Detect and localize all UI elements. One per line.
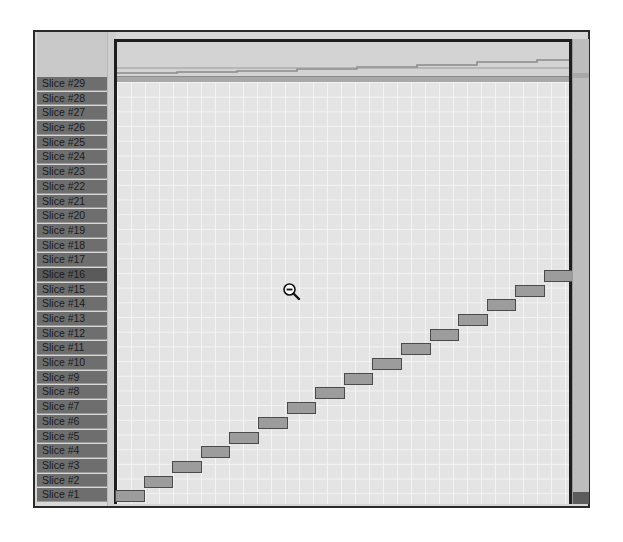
- slice-label[interactable]: Slice #23: [37, 165, 107, 179]
- slice-block[interactable]: [344, 373, 374, 385]
- slice-label[interactable]: Slice #5: [37, 430, 107, 444]
- slice-label[interactable]: Slice #15: [37, 283, 107, 297]
- slice-label[interactable]: Slice #18: [37, 239, 107, 253]
- slice-label[interactable]: Slice #17: [37, 253, 107, 267]
- slice-label[interactable]: Slice #10: [37, 356, 107, 370]
- slice-block[interactable]: [458, 314, 488, 326]
- slice-block[interactable]: [287, 402, 317, 414]
- slice-label[interactable]: Slice #25: [37, 136, 107, 150]
- scrollbar-thumb[interactable]: [573, 492, 589, 504]
- slice-label[interactable]: Slice #26: [37, 121, 107, 135]
- zoom-out-magnifier-icon: [282, 282, 302, 302]
- overview-ruler[interactable]: [117, 42, 569, 76]
- slice-label[interactable]: Slice #3: [37, 459, 107, 473]
- slice-label[interactable]: Slice #22: [37, 180, 107, 194]
- slice-label[interactable]: Slice #8: [37, 385, 107, 399]
- scrollbar-separator: [573, 73, 589, 78]
- slice-block[interactable]: [229, 432, 259, 444]
- slice-block[interactable]: [515, 285, 545, 297]
- slice-label[interactable]: Slice #24: [37, 150, 107, 164]
- label-column-header: [37, 32, 107, 78]
- slice-block[interactable]: [144, 476, 174, 488]
- slice-label-list: Slice #29Slice #28Slice #27Slice #26Slic…: [37, 77, 107, 503]
- slice-label[interactable]: Slice #4: [37, 444, 107, 458]
- slice-block[interactable]: [115, 490, 145, 502]
- slice-label[interactable]: Slice #16: [37, 268, 115, 282]
- slice-label[interactable]: Slice #28: [37, 92, 107, 106]
- slice-label[interactable]: Slice #11: [37, 341, 107, 355]
- slice-editor-window: Slice #29Slice #28Slice #27Slice #26Slic…: [33, 30, 590, 508]
- slice-label[interactable]: Slice #19: [37, 224, 107, 238]
- slice-label[interactable]: Slice #27: [37, 106, 107, 120]
- slice-label[interactable]: Slice #29: [37, 77, 107, 91]
- slice-block[interactable]: [258, 417, 288, 429]
- slice-label[interactable]: Slice #13: [37, 312, 107, 326]
- slice-block[interactable]: [401, 343, 431, 355]
- slice-block[interactable]: [315, 387, 345, 399]
- slice-block[interactable]: [487, 299, 517, 311]
- slice-block[interactable]: [544, 270, 574, 282]
- vertical-scrollbar[interactable]: [572, 39, 589, 504]
- slice-block[interactable]: [372, 358, 402, 370]
- slice-block[interactable]: [201, 446, 231, 458]
- slice-label[interactable]: Slice #7: [37, 400, 107, 414]
- slice-label[interactable]: Slice #6: [37, 415, 107, 429]
- slice-label[interactable]: Slice #14: [37, 297, 107, 311]
- slice-block[interactable]: [430, 329, 460, 341]
- slice-label[interactable]: Slice #21: [37, 195, 107, 209]
- slice-grid[interactable]: [117, 82, 569, 504]
- slice-block[interactable]: [172, 461, 202, 473]
- sequencer-grid-frame: [114, 39, 572, 504]
- slice-label[interactable]: Slice #20: [37, 209, 107, 223]
- slice-label[interactable]: Slice #9: [37, 371, 107, 385]
- slice-label[interactable]: Slice #2: [37, 474, 107, 488]
- slice-label[interactable]: Slice #12: [37, 327, 107, 341]
- overview-ruler-line: [117, 42, 569, 76]
- slice-label[interactable]: Slice #1: [37, 488, 107, 502]
- slice-label-column: Slice #29Slice #28Slice #27Slice #26Slic…: [37, 32, 107, 506]
